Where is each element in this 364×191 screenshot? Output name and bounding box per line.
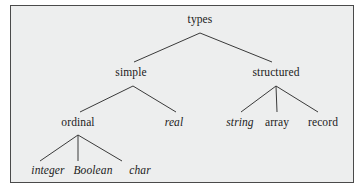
tree-node-char: char <box>129 165 150 177</box>
tree-node-ordinal: ordinal <box>61 117 94 129</box>
tree-edge-types-to-simple <box>134 33 200 62</box>
tree-node-real: real <box>165 117 184 129</box>
tree-edge-simple-to-real <box>133 86 176 112</box>
tree-node-Boolean: Boolean <box>73 165 112 177</box>
tree-edge-ordinal-to-integer <box>40 135 78 161</box>
type-hierarchy-figure: typessimplestructuredordinalrealstringar… <box>0 0 364 191</box>
tree-edge-structured-to-string <box>241 86 276 112</box>
tree-node-string: string <box>226 117 253 129</box>
tree-edges <box>0 0 364 191</box>
tree-node-simple: simple <box>115 67 146 79</box>
tree-node-integer: integer <box>31 165 64 177</box>
tree-node-record: record <box>308 117 338 129</box>
tree-edge-ordinal-to-char <box>78 135 122 161</box>
tree-node-array: array <box>265 117 289 129</box>
tree-node-structured: structured <box>253 67 300 79</box>
tree-edge-structured-to-array <box>276 86 277 112</box>
tree-edge-simple-to-ordinal <box>80 86 133 112</box>
tree-edge-types-to-structured <box>200 33 272 62</box>
tree-edge-structured-to-record <box>276 86 318 112</box>
tree-node-types: types <box>188 14 213 26</box>
